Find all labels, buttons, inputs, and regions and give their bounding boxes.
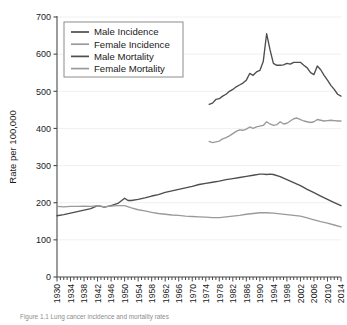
legend-label-female-mortality: Female Mortality <box>94 63 165 74</box>
x-tick-label: 1974 <box>201 284 211 303</box>
y-tick-label: 400 <box>36 124 51 134</box>
y-tick-label: 0 <box>46 272 51 282</box>
x-tick-label: 1982 <box>228 284 238 303</box>
y-axis-title: Rate per 100,000 <box>7 110 18 183</box>
x-tick-label: 1998 <box>282 284 292 303</box>
legend-label-female-incidence: Female Incidence <box>94 39 170 50</box>
series-line-male-incidence <box>209 34 341 105</box>
x-tick-label: 1994 <box>269 284 279 303</box>
x-tick-label: 1958 <box>147 284 157 303</box>
x-tick-label: 1950 <box>120 284 130 303</box>
x-tick-label: 1962 <box>161 284 171 303</box>
x-tick-label: 1946 <box>106 284 116 303</box>
y-tick-label: 600 <box>36 49 51 59</box>
legend-label-male-mortality: Male Mortality <box>94 51 154 62</box>
x-tick-label: 1930 <box>52 284 62 303</box>
series-line-female-incidence <box>209 118 341 143</box>
figure-caption: Figure 1.1 Lung cancer incidence and mor… <box>20 313 347 321</box>
lung-cancer-rates-chart: 0100200300400500600700193019341938194219… <box>0 0 347 325</box>
x-tick-label: 1938 <box>79 284 89 303</box>
x-tick-label: 1978 <box>215 284 225 303</box>
y-tick-label: 100 <box>36 235 51 245</box>
x-tick-label: 2006 <box>309 284 319 303</box>
x-tick-label: 2010 <box>323 284 333 303</box>
x-tick-label: 2014 <box>336 284 346 303</box>
series-line-female-mortality <box>57 206 341 227</box>
series-line-male-mortality <box>57 174 341 216</box>
x-tick-label: 1954 <box>134 284 144 303</box>
y-tick-label: 300 <box>36 161 51 171</box>
x-tick-label: 1970 <box>188 284 198 303</box>
x-tick-label: 1934 <box>66 284 76 303</box>
x-tick-label: 1942 <box>93 284 103 303</box>
legend-label-male-incidence: Male Incidence <box>94 26 159 37</box>
y-tick-label: 500 <box>36 87 51 97</box>
x-tick-label: 1986 <box>242 284 252 303</box>
figure-container: 0100200300400500600700193019341938194219… <box>0 0 347 325</box>
x-tick-label: 1966 <box>174 284 184 303</box>
x-tick-label: 2002 <box>296 284 306 303</box>
y-tick-label: 200 <box>36 198 51 208</box>
y-tick-label: 700 <box>36 12 51 22</box>
x-tick-label: 1990 <box>255 284 265 303</box>
